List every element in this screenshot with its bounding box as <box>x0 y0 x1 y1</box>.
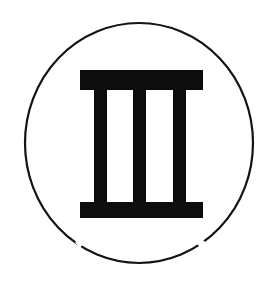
glyph-stem-1 <box>94 70 107 218</box>
roman-numeral-three-glyph <box>80 70 203 218</box>
emblem-canvas: III Roman numeral three inside a thin ci… <box>0 0 277 289</box>
emblem-graphic <box>0 0 277 289</box>
glyph-stem-3 <box>173 70 186 218</box>
glyph-stem-2 <box>133 70 146 218</box>
